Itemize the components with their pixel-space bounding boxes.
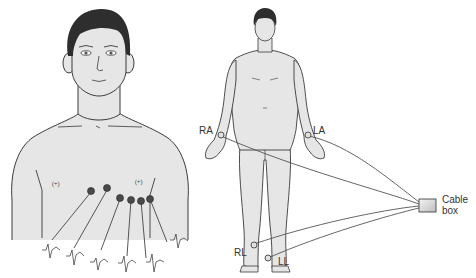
electrode-v1 — [88, 188, 95, 195]
label-cable-box: Cable box — [442, 194, 468, 216]
electrode-v3 — [117, 195, 124, 202]
electrode-ra — [218, 132, 224, 138]
electrode-v2 — [104, 185, 111, 192]
cable-box-icon — [419, 199, 436, 212]
body-figure — [205, 8, 324, 272]
chest-figure: (+) (+) — [0, 9, 200, 278]
electrode-v6 — [147, 196, 154, 203]
ecg-electrode-diagram: (+) (+) — [0, 0, 476, 278]
electrode-rl — [251, 242, 257, 248]
label-rl: RL — [234, 247, 247, 258]
label-ll: LL — [278, 256, 289, 267]
electrode-v5 — [138, 198, 145, 205]
electrode-ll — [265, 255, 271, 261]
electrode-la — [305, 132, 311, 138]
cable-box-line1: Cable — [442, 194, 468, 205]
svg-text:(+): (+) — [52, 181, 59, 188]
cable-box-line2: box — [442, 205, 468, 216]
label-ra: RA — [199, 125, 213, 136]
electrode-v4 — [128, 197, 135, 204]
label-la: LA — [313, 125, 325, 136]
svg-text:(+): (+) — [135, 179, 142, 186]
